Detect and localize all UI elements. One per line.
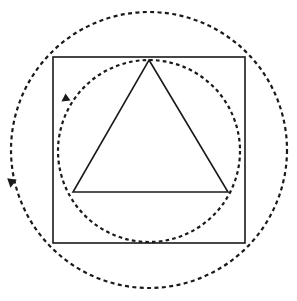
figure-canvas: Geometric construction: circumscribed ci…	[0, 0, 297, 301]
figure-background	[0, 0, 297, 301]
geometric-figure: Geometric construction: circumscribed ci…	[0, 0, 297, 301]
